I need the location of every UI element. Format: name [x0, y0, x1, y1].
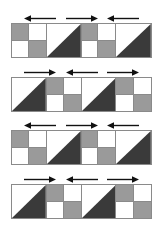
arrow-right-icon [107, 176, 139, 183]
checker-quadrant-white [98, 131, 115, 148]
checker-quadrant-gray [82, 24, 99, 41]
checker-quadrant-gray [98, 41, 115, 58]
checker-quadrant-white [98, 24, 115, 41]
checker-quadrant-white [134, 185, 151, 202]
checker-quadrant-gray [29, 41, 46, 58]
arrow-right-icon [24, 176, 56, 183]
checker-quadrant-gray [116, 185, 133, 202]
checkerboard-tile [82, 24, 117, 57]
checker-quadrant-white [82, 148, 99, 165]
triangle-tile [116, 24, 151, 57]
arrow-row [11, 66, 152, 77]
tile-panel-1 [11, 12, 152, 58]
checker-quadrant-white [116, 95, 133, 112]
tile-panel-4 [11, 173, 152, 219]
triangle-tile [12, 185, 47, 218]
checker-quadrant-white [47, 202, 64, 219]
triangle-tile [82, 185, 117, 218]
tile-strip [11, 23, 152, 58]
checker-quadrant-gray [12, 131, 29, 148]
arrow-right-icon [66, 122, 98, 129]
checker-quadrant-white [12, 41, 29, 58]
checker-quadrant-gray [134, 95, 151, 112]
tile-panel-3 [11, 119, 152, 165]
checkerboard-tile [12, 131, 47, 164]
tile-strip [11, 130, 152, 165]
tile-strip [11, 77, 152, 112]
checker-quadrant-white [12, 148, 29, 165]
arrow-right-icon [24, 69, 56, 76]
arrow-left-icon [66, 176, 98, 183]
checker-quadrant-white [116, 202, 133, 219]
checker-quadrant-white [47, 95, 64, 112]
arrow-row [11, 173, 152, 184]
checkerboard-tile [116, 185, 151, 218]
tile-panel-2 [11, 66, 152, 112]
checkerboard-tile [47, 185, 82, 218]
checker-quadrant-gray [12, 24, 29, 41]
checker-quadrant-gray [64, 95, 81, 112]
triangle-tile [82, 78, 117, 111]
arrow-right-icon [66, 15, 98, 22]
checker-quadrant-white [64, 78, 81, 95]
checker-quadrant-gray [82, 131, 99, 148]
checkerboard-tile [82, 131, 117, 164]
checker-quadrant-white [82, 41, 99, 58]
checker-quadrant-white [29, 24, 46, 41]
arrow-left-icon [24, 122, 56, 129]
checkerboard-tile [47, 78, 82, 111]
checker-quadrant-gray [98, 148, 115, 165]
checker-quadrant-gray [116, 78, 133, 95]
checker-quadrant-white [29, 131, 46, 148]
tile-strip [11, 184, 152, 219]
checker-quadrant-gray [64, 202, 81, 219]
triangle-tile [47, 24, 82, 57]
checker-quadrant-gray [134, 202, 151, 219]
checker-quadrant-gray [47, 185, 64, 202]
arrow-right-icon [107, 69, 139, 76]
checker-quadrant-gray [47, 78, 64, 95]
checkerboard-tile [12, 24, 47, 57]
arrow-left-icon [24, 15, 56, 22]
checkerboard-tile [116, 78, 151, 111]
checker-quadrant-gray [29, 148, 46, 165]
arrow-left-icon [107, 15, 139, 22]
triangle-tile [12, 78, 47, 111]
checker-quadrant-white [64, 185, 81, 202]
arrow-left-icon [66, 69, 98, 76]
arrow-left-icon [107, 122, 139, 129]
triangle-tile [116, 131, 151, 164]
arrow-row [11, 12, 152, 23]
tiling-figure [0, 0, 164, 237]
triangle-tile [47, 131, 82, 164]
arrow-row [11, 119, 152, 130]
checker-quadrant-white [134, 78, 151, 95]
